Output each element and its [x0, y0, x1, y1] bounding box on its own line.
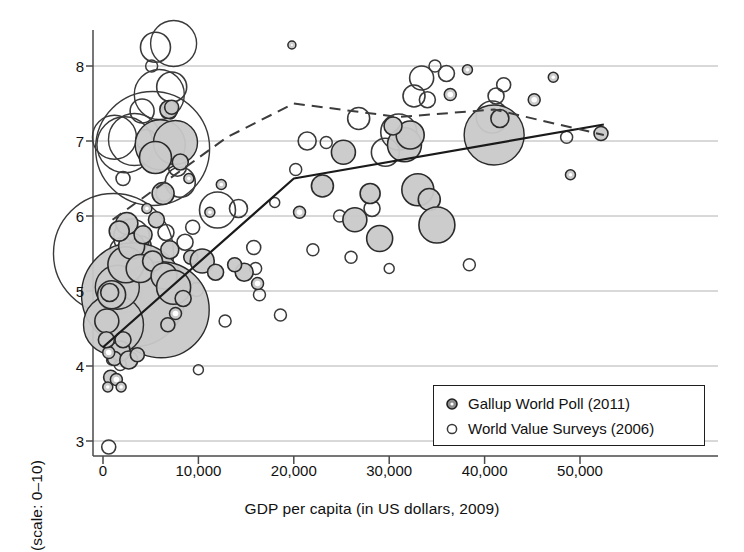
gallup-bubble [384, 117, 402, 135]
gallup-bubble [109, 221, 129, 241]
gallup-bubble [331, 140, 355, 164]
wvs-bubble [102, 440, 116, 454]
wvs-bubble [497, 78, 511, 92]
gallup-bubble-core [551, 75, 555, 79]
gallup-bubble [172, 154, 188, 170]
wvs-bubble [561, 131, 573, 143]
legend-box: Gallup World Poll (2011) World Value Sur… [433, 385, 705, 446]
gallup-bubble [161, 241, 179, 259]
gallup-bubble-core [297, 209, 303, 215]
gallup-bubble [228, 258, 242, 272]
gallup-bubble [491, 110, 509, 128]
wvs-bubble [345, 251, 357, 263]
wvs-bubble [219, 315, 231, 327]
gallup-bubble [139, 142, 171, 174]
wvs-bubble [463, 259, 475, 271]
y-axis-title-wrapper: Subjective well-being (scale: 0–10) [0, 0, 40, 470]
gallup-bubble [419, 207, 455, 243]
gallup-bubble-core [106, 385, 110, 389]
gallup-bubble [152, 183, 174, 205]
wvs-bubble [307, 244, 319, 256]
gallup-bubble [101, 284, 119, 302]
wvs-bubble [157, 72, 187, 102]
wvs-bubble [92, 115, 136, 159]
gallup-bubble-core [447, 92, 453, 98]
gallup-bubble [175, 291, 191, 307]
bubble-chart-figure: 345678 010,00020,00030,00040,00050,000 G… [0, 0, 744, 552]
x-tick-label-50000: 50,000 [557, 462, 603, 479]
wvs-bubble [384, 264, 394, 274]
wvs-bubble [438, 66, 454, 82]
wvs-bubble [229, 200, 247, 218]
y-axis-title: Subjective well-being (scale: 0–10) [28, 460, 46, 552]
gallup-bubble-core [208, 210, 212, 214]
gallup-bubble [130, 348, 144, 362]
legend-item-gallup[interactable]: Gallup World Poll (2011) [444, 391, 704, 416]
legend-label-wvs: World Value Surveys (2006) [468, 420, 654, 437]
gallup-bubble [95, 309, 119, 333]
wvs-bubble [151, 21, 197, 67]
y-tick-labels: 345678 [58, 0, 84, 470]
y-tick-label-8: 8 [58, 58, 84, 75]
wvs-bubble [186, 220, 200, 234]
x-tick-label-30000: 30,000 [366, 462, 412, 479]
x-tick-label-0: 0 [99, 462, 107, 479]
wvs-bubble [146, 60, 158, 72]
wvs-bubble [193, 365, 203, 375]
wvs-bubble [298, 132, 316, 150]
filled-circle-marker-icon [444, 396, 460, 412]
gallup-bubble [343, 208, 367, 232]
x-tick-label-20000: 20,000 [271, 462, 317, 479]
gallup-bubble-core [173, 311, 179, 317]
wvs-bubble [290, 164, 302, 176]
gallup-bubble [208, 264, 224, 280]
gallup-bubble [134, 226, 152, 244]
wvs-bubble [253, 289, 265, 301]
y-tick-label-3: 3 [58, 433, 84, 450]
gallup-bubble [165, 100, 179, 114]
wvs-bubble [116, 172, 130, 186]
wvs-bubble [274, 309, 286, 321]
gallup-bubble-core [106, 350, 112, 356]
gallup-bubble-core [466, 68, 470, 72]
wvs-bubble [247, 241, 261, 255]
gallup-bubble-core [291, 44, 293, 46]
gallup-bubble-core [531, 97, 537, 103]
y-tick-label-4: 4 [58, 358, 84, 375]
legend-label-gallup: Gallup World Poll (2011) [468, 395, 630, 412]
wvs-bubble [320, 137, 332, 149]
gallup-bubble [311, 175, 333, 197]
gallup-bubble [161, 318, 175, 332]
y-tick-label-5: 5 [58, 283, 84, 300]
legend-item-wvs[interactable]: World Value Surveys (2006) [444, 416, 704, 441]
wvs-bubble [130, 99, 154, 123]
gallup-bubble-core [187, 177, 191, 181]
wvs-bubble [177, 234, 193, 250]
wvs-bubble [419, 92, 435, 108]
gallup-bubble-core [119, 385, 123, 389]
x-tick-label-40000: 40,000 [462, 462, 508, 479]
gallup-bubble [148, 212, 164, 228]
gallup-bubble-core [114, 377, 120, 383]
gallup-bubble-core [220, 183, 224, 187]
gallup-bubble [360, 184, 380, 204]
y-tick-label-6: 6 [58, 208, 84, 225]
gallup-bubble [367, 226, 393, 252]
gallup-bubble-core [569, 173, 573, 177]
gallup-bubble-core [145, 207, 149, 211]
open-circle-marker-icon [444, 421, 460, 437]
gallup-bubble-core [255, 281, 261, 287]
y-tick-label-7: 7 [58, 133, 84, 150]
x-axis-title: GDP per capita (in US dollars, 2009) [0, 500, 744, 518]
x-tick-label-10000: 10,000 [175, 462, 221, 479]
